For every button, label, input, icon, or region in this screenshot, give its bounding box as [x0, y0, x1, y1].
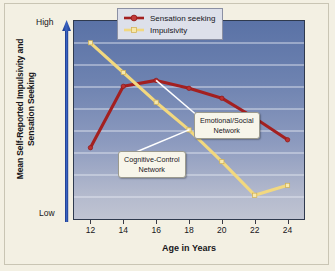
chart-figure: Mean Self-Reported Impulsivity and Sensa…	[0, 0, 335, 271]
plot-area	[73, 20, 305, 220]
y-axis-title: Mean Self-Reported Impulsivity and Sensa…	[15, 19, 37, 199]
x-axis-tick-labels: 12141618202224	[73, 225, 305, 237]
x-tick-mark-20	[222, 220, 223, 224]
callout-emotional-line1: Emotional/Social	[200, 116, 254, 126]
legend-label-sensation-seeking: Sensation seeking	[150, 14, 215, 23]
plot-svg	[74, 21, 304, 219]
callout-cognitive-line1: Cognitive-Control	[124, 155, 180, 165]
legend-label-impulsivity: Impulsivity	[150, 26, 187, 35]
legend-key-sensation-seeking-icon	[123, 13, 145, 23]
callout-cognitive-control-network: Cognitive-Control Network	[118, 151, 186, 178]
x-tick-label-12: 12	[86, 225, 95, 235]
x-tick-label-20: 20	[217, 225, 226, 235]
legend-item-sensation-seeking: Sensation seeking	[123, 12, 215, 24]
callout-emotional-social-network: Emotional/Social Network	[194, 112, 260, 139]
x-tick-label-14: 14	[119, 225, 128, 235]
x-tick-label-22: 22	[250, 225, 259, 235]
callout-emotional-line2: Network	[200, 126, 254, 136]
x-tick-mark-18	[189, 220, 190, 224]
x-tick-mark-14	[123, 220, 124, 224]
x-tick-label-24: 24	[283, 225, 292, 235]
y-axis-low-label: Low	[39, 208, 55, 218]
y-axis-label-wrapper: Mean Self-Reported Impulsivity and Sensa…	[8, 20, 42, 220]
x-axis-title: Age in Years	[73, 243, 305, 253]
x-tick-label-16: 16	[151, 225, 160, 235]
x-tick-mark-22	[255, 220, 256, 224]
y-axis-high-label: High	[36, 17, 53, 27]
x-tick-mark-12	[90, 220, 91, 224]
x-tick-mark-16	[156, 220, 157, 224]
x-tick-mark-24	[288, 220, 289, 224]
x-tick-label-18: 18	[184, 225, 193, 235]
chart-legend: Sensation seeking Impulsivity	[117, 8, 223, 40]
legend-key-impulsivity-icon	[123, 25, 145, 35]
y-axis-arrow-icon	[62, 20, 71, 222]
legend-item-impulsivity: Impulsivity	[123, 24, 215, 36]
callout-cognitive-line2: Network	[124, 165, 180, 175]
